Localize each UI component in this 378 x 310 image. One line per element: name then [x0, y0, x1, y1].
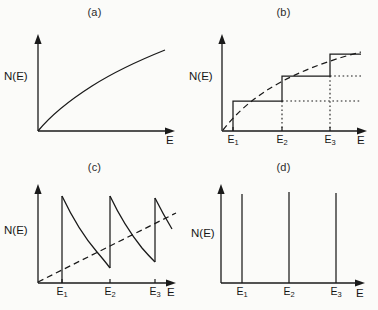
panel-c-tail-1 [62, 196, 110, 268]
panel-c-tail-3 [155, 198, 172, 229]
panel-c-y-axis-arrow [34, 184, 41, 194]
panel-d-x-axis-arrow [355, 279, 365, 286]
panel-a-y-axis-arrow [34, 34, 41, 44]
panel-c-plot [0, 155, 189, 310]
panel-d-y-axis-arrow [217, 184, 224, 194]
panel-b: (b) N(E) E E1 E2 E3 [189, 0, 378, 155]
panel-d-plot [189, 155, 378, 310]
panel-a-plot [0, 0, 189, 155]
panel-b-plot [189, 0, 378, 155]
panel-b-sqrt-envelope [223, 52, 361, 130]
panel-a-sqrt-curve [38, 50, 165, 131]
density-of-states-figure: (a) N(E) E (b) N(E) E E1 E2 E3 [0, 0, 378, 310]
panel-c-tail-2 [110, 196, 155, 262]
panel-c: (c) N(E) E E1 E2 E3 [0, 155, 189, 310]
panel-a-x-axis-arrow [165, 127, 175, 134]
panel-a: (a) N(E) E [0, 0, 189, 155]
panel-b-staircase-curve [233, 54, 361, 131]
panel-b-x-axis-arrow [357, 127, 367, 134]
panel-b-y-axis-arrow [218, 34, 225, 44]
panel-d: (d) N(E) E E1 E2 E3 [189, 155, 378, 310]
panel-c-x-axis-arrow [166, 279, 176, 286]
